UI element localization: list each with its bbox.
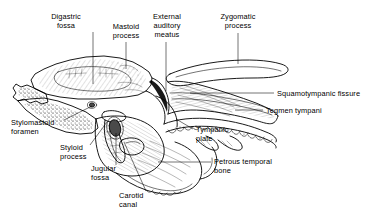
label-carotid-canal: Carotid canal bbox=[119, 191, 144, 209]
label-styloid-process: Styloid process bbox=[60, 143, 87, 161]
anatomical-diagram: Digastric fossa Mastoid process External… bbox=[0, 0, 385, 224]
label-jugular-fossa: Jugular fossa bbox=[91, 164, 116, 182]
leader-tympanic-plate bbox=[176, 119, 193, 129]
leader-stylomastoid-foramen bbox=[64, 106, 92, 120]
label-stylomastoid-foramen: Stylomastoid foramen bbox=[11, 118, 55, 136]
label-tegmen-tympani: Tegmen tympani bbox=[266, 106, 322, 115]
label-external-auditory-meatus: External auditory meatus bbox=[144, 12, 190, 40]
leader-carotid-canal bbox=[124, 142, 146, 191]
label-squamotympanic-fissure: Squamotympanic fissure bbox=[277, 89, 360, 98]
label-zygomatic-process: Zygomatic process bbox=[209, 12, 267, 30]
label-petrous-temporal-bone: Petrous temporal bone bbox=[214, 157, 272, 175]
leader-lines-layer bbox=[0, 0, 385, 224]
label-digastric-fossa: Digastric fossa bbox=[36, 12, 96, 30]
leader-styloid-process bbox=[90, 122, 107, 145]
label-tympanic-plate: Tympanic plate bbox=[196, 125, 228, 143]
